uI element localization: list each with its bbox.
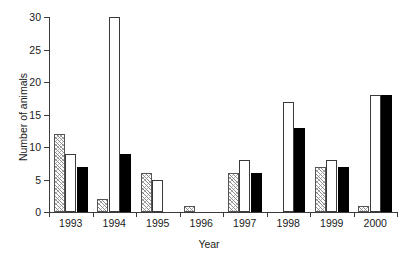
bar-1993-hatched [54, 134, 65, 212]
bar-2000-white [370, 95, 381, 212]
y-axis-tick-label: 20 [1, 76, 41, 88]
bar-1995-hatched [141, 173, 152, 212]
y-axis-tick [44, 82, 49, 83]
y-axis-tick-label: 15 [1, 109, 41, 121]
y-axis-tick [44, 50, 49, 51]
bar-1997-white [239, 160, 250, 212]
bar-1993-white [65, 154, 76, 213]
y-axis-tick-label: 5 [1, 174, 41, 186]
bar-1994-hatched [97, 199, 108, 212]
bar-1996-hatched [184, 206, 195, 213]
y-axis-tick [44, 147, 49, 148]
y-axis-tick-label: 10 [1, 141, 41, 153]
bar-2000-black [381, 95, 392, 212]
x-axis-tick-label: 2000 [345, 217, 405, 229]
bar-1999-white [326, 160, 337, 212]
y-axis-tick-label: 0 [1, 206, 41, 218]
bar-1998-black [294, 128, 305, 213]
bar-1993-black [77, 167, 88, 213]
bar-1997-black [251, 173, 262, 212]
bar-1999-hatched [315, 167, 326, 213]
y-axis-tick-label: 25 [1, 44, 41, 56]
y-axis-tick [44, 115, 49, 116]
bar-chart-figure: Number of animals Year 051015202530 1993… [0, 0, 418, 259]
x-axis-label: Year [0, 238, 418, 250]
bar-1999-black [338, 167, 349, 213]
y-axis-tick [44, 17, 49, 18]
bar-1994-black [120, 154, 131, 213]
y-axis-tick-labels: 051015202530 [1, 17, 41, 212]
bar-1995-white [152, 180, 163, 213]
y-axis-tick-label: 30 [1, 11, 41, 23]
bar-1998-white [283, 102, 294, 213]
plot-area: 051015202530 199319941995199619971998199… [49, 17, 397, 212]
bar-2000-hatched [358, 206, 369, 213]
y-axis-tick [44, 180, 49, 181]
bar-1997-hatched [228, 173, 239, 212]
y-axis-line [49, 17, 50, 212]
bar-1994-white [109, 17, 120, 212]
